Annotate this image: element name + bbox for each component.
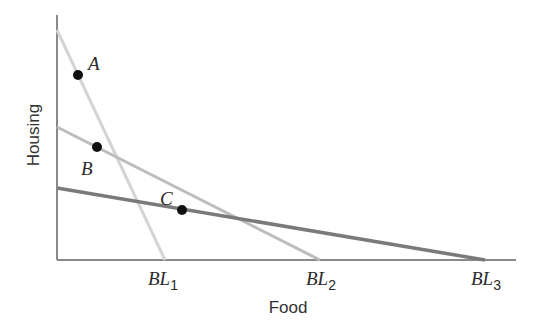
- bl2-label: BL2: [306, 268, 336, 293]
- x-axis-title: Food: [269, 298, 308, 317]
- point-b: [92, 142, 102, 152]
- point-c-label: C: [160, 188, 173, 209]
- bl3-label: BL3: [471, 268, 501, 293]
- y-axis-title: Housing: [24, 104, 43, 166]
- bl1-label: BL1: [148, 268, 178, 293]
- budget-line-3: [57, 188, 485, 260]
- budget-line-chart: A B C BL1 BL2 BL3 Food Housing: [0, 0, 542, 331]
- point-c: [177, 205, 187, 215]
- point-a: [73, 70, 83, 80]
- budget-line-1: [57, 30, 165, 260]
- point-b-label: B: [81, 158, 93, 179]
- point-a-label: A: [86, 53, 100, 74]
